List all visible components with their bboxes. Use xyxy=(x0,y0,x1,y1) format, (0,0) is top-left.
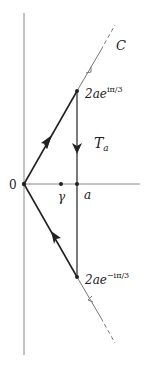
a-label: a xyxy=(84,188,91,202)
gamma-point xyxy=(59,182,63,186)
segment-bottom-to-origin xyxy=(24,184,77,277)
a-point xyxy=(75,182,79,186)
arrow-lower-left-icon xyxy=(51,231,61,244)
top-point-label: 2aeiπ/3 xyxy=(84,85,123,101)
contour-diagram: 0 γ a C Ta 2aeiπ/3 2ae−iπ/3 xyxy=(0,0,145,371)
contour-c-label: C xyxy=(116,38,126,53)
gamma-label: γ xyxy=(58,190,66,204)
bottom-point-label: 2ae−iπ/3 xyxy=(84,271,129,287)
origin-label: 0 xyxy=(9,178,17,192)
bottom-point xyxy=(75,275,79,279)
origin-point xyxy=(22,182,26,186)
ray-c-upper-dashed xyxy=(101,25,115,50)
top-point xyxy=(75,89,79,93)
Ta-label: Ta xyxy=(94,135,109,153)
ray-c-upper xyxy=(77,50,101,91)
ray-c-lower-dashed xyxy=(101,318,115,343)
arrow-upper-left-icon-head xyxy=(41,135,52,149)
